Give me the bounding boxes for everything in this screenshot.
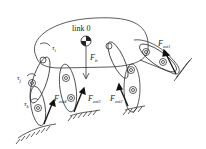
legged-robot-diagram: link 0 τi τj τk Fb Fext4 Fext3 Fext2 Fex… — [0, 0, 206, 149]
leg2-upper — [104, 39, 132, 80]
force-ext3-arrow — [74, 92, 82, 112]
svg-text:Fb: Fb — [89, 53, 98, 63]
svg-text:τk: τk — [24, 100, 30, 109]
ground-hatch-icons — [16, 58, 192, 144]
link-0-label: link 0 — [72, 24, 90, 33]
svg-text:Fext3: Fext3 — [87, 94, 101, 104]
svg-text:τi: τi — [52, 44, 57, 53]
svg-text:Fext4: Fext4 — [53, 94, 67, 104]
svg-text:τj: τj — [17, 74, 22, 83]
svg-text:Fext2: Fext2 — [109, 94, 123, 104]
svg-text:Fext1: Fext1 — [157, 39, 170, 49]
center-of-mass-icon — [81, 36, 91, 46]
leg3 — [57, 63, 80, 113]
torque-i-arrow — [40, 43, 50, 46]
